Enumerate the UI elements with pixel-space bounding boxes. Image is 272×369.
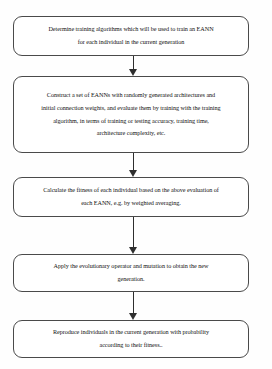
flow-arrow-down-icon — [128, 292, 140, 320]
flow-node-text-line: Reproduce individuals in the current gen… — [21, 326, 241, 339]
flow-node-text-line: for each individual in the current gener… — [21, 36, 241, 49]
flow-node-text-line: according to their fitness.. — [21, 339, 241, 352]
flow-node-text-line: Calculate the fitness of each individual… — [21, 184, 241, 197]
flow-node-text-line: generation. — [21, 273, 241, 286]
flow-node-calculate-fitness: Calculate the fitness of each individual… — [13, 177, 249, 217]
arrow-shaft — [133, 153, 134, 170]
flow-arrow-down-icon — [128, 153, 140, 177]
arrow-shaft — [133, 292, 134, 313]
flow-arrow-down-icon — [128, 217, 140, 254]
flow-arrow-down-icon — [128, 56, 140, 76]
arrow-shaft — [133, 217, 134, 247]
flow-node-construct-eanns: Construct a set of EANNs with randomly g… — [13, 76, 249, 153]
arrow-head — [129, 69, 137, 76]
arrow-head — [129, 170, 137, 177]
flow-node-apply-evolutionary-operator: Apply the evolutionary operator and muta… — [13, 254, 249, 292]
flow-node-text-line: initial connection weights, and evaluate… — [21, 102, 241, 115]
flow-node-text-line: Determine training algorithms which will… — [21, 23, 241, 36]
flow-node-reproduce-individuals: Reproduce individuals in the current gen… — [13, 320, 249, 358]
flow-node-text-line: Apply the evolutionary operator and muta… — [21, 260, 241, 273]
arrow-head — [129, 313, 137, 320]
flowchart-diagram: Determine training algorithms which will… — [0, 0, 272, 369]
flow-node-text-line: each EANN, e.g. by weighted averaging. — [21, 197, 241, 210]
flow-node-text-line: Construct a set of EANNs with randomly g… — [21, 89, 241, 102]
arrow-shaft — [133, 56, 134, 69]
flow-node-text-line: architecture complexity, etc. — [21, 127, 241, 140]
flow-node-text-line: algorithm, in terms of training or testi… — [21, 115, 241, 128]
flow-node-determine-training-algorithms: Determine training algorithms which will… — [13, 16, 249, 56]
arrow-head — [129, 247, 137, 254]
